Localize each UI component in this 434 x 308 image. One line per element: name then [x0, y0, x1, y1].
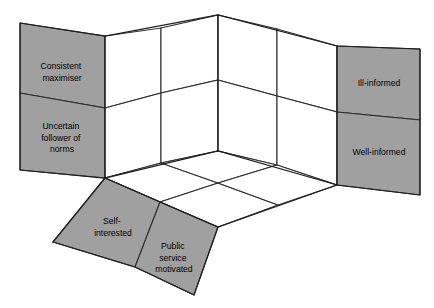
label-consistent-maximiser: Consistent maximiser	[41, 61, 84, 83]
back-left-cell-bottom-outer	[161, 80, 218, 163]
diagram-canvas: Consistent maximiser Uncertain follower …	[0, 0, 434, 308]
three-dimensional-framework-diagram: Consistent maximiser Uncertain follower …	[0, 0, 434, 308]
left-wall-group	[20, 23, 105, 178]
label-ill-informed: Ill-informed	[358, 78, 401, 88]
label-well-informed: Well-informed	[353, 147, 406, 157]
back-left-cell-top-outer	[161, 15, 218, 93]
back-left-wall-group	[105, 15, 218, 178]
right-wall-group	[337, 46, 420, 195]
